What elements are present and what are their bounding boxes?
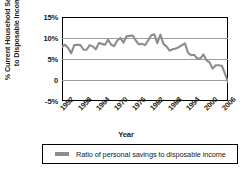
x-tick-label-1982: 1982 (148, 95, 165, 112)
x-tick-label-1970: 1970 (112, 95, 129, 112)
chart-legend: Ratio of personal savings to disposable … (42, 144, 238, 164)
x-axis-title: Year (0, 130, 252, 139)
legend-label-savings-ratio: Ratio of personal savings to disposable … (76, 150, 226, 159)
x-tick-label-1994: 1994 (184, 95, 201, 112)
x-tick-label-2006: 2006 (220, 95, 237, 112)
x-tick-label-1958: 1958 (76, 95, 93, 112)
x-tick-label-2000: 2000 (202, 95, 219, 112)
x-tick-label-1976: 1976 (130, 95, 147, 112)
x-tick-label-1988: 1988 (166, 95, 183, 112)
x-tick-label-1952: 1952 (58, 95, 75, 112)
x-tick-label-1964: 1964 (94, 95, 111, 112)
chart-figure: % Current Household Savings to Disposabl… (0, 0, 252, 176)
legend-swatch-savings-ratio (55, 152, 69, 155)
